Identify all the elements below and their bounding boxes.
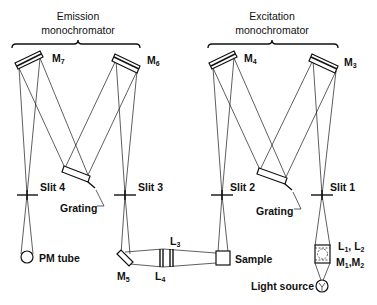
excitation-bracket xyxy=(208,40,338,48)
light-source-icon xyxy=(316,280,328,292)
emission-monochromator-title: Emission monochromator xyxy=(41,10,115,36)
label-m1-m2: M1,M2 xyxy=(336,256,364,269)
slit-3-label: Slit 3 xyxy=(138,181,163,193)
pm-tube-icon xyxy=(21,251,33,263)
excitation-grating xyxy=(257,168,301,209)
spectrofluorometer-diagram: Emission monochromator Excitation monoch… xyxy=(0,0,377,305)
mirror-m7 xyxy=(15,51,43,69)
lens-mirror-assembly-l1-l2-m1-m2 xyxy=(315,245,330,263)
slit-2-label: Slit 2 xyxy=(230,181,255,193)
label-l3: L3 xyxy=(170,235,180,248)
emission-grating xyxy=(62,166,104,206)
mirror-m4 xyxy=(209,51,237,69)
sample-cuvette-icon xyxy=(216,251,230,265)
label-m7: M7 xyxy=(52,52,65,65)
lenses-l3-l4 xyxy=(160,249,173,267)
label-m6: M6 xyxy=(147,54,160,67)
label-l1-l2: L1, L2 xyxy=(338,240,365,253)
emission-title-line1: Emission xyxy=(57,10,100,22)
slit-1-label: Slit 1 xyxy=(330,181,355,193)
sample-label: Sample xyxy=(235,253,273,265)
slit-4 xyxy=(17,190,38,200)
label-m3: M3 xyxy=(344,56,357,69)
emission-grating-label: Grating xyxy=(60,202,97,214)
excitation-monochromator-title: Excitation monochromator xyxy=(235,10,309,36)
excitation-title-line1: Excitation xyxy=(249,10,295,22)
excitation-title-line2: monochromator xyxy=(235,24,309,36)
mirror-m6 xyxy=(112,54,140,73)
emission-bracket xyxy=(12,40,140,48)
light-source-label: Light source xyxy=(251,280,314,292)
emission-light-paths xyxy=(19,58,137,254)
slit-4-label: Slit 4 xyxy=(40,181,65,193)
label-m4: M4 xyxy=(244,52,257,65)
label-m5: M5 xyxy=(117,270,130,283)
slit-3 xyxy=(114,190,136,200)
pm-tube-label: PM tube xyxy=(39,252,80,264)
label-l4: L4 xyxy=(155,270,165,283)
excitation-grating-label: Grating xyxy=(256,205,293,217)
mirror-m5 xyxy=(117,250,133,266)
emission-title-line2: monochromator xyxy=(41,24,115,36)
